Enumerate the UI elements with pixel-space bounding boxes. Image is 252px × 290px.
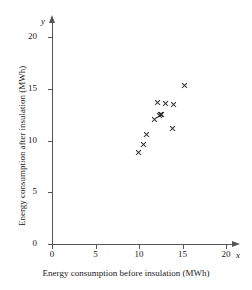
data-point <box>154 99 161 106</box>
x-tick-label: 5 <box>84 250 108 259</box>
x-tick-label: 0 <box>40 250 64 259</box>
data-point <box>170 101 177 108</box>
x-tick-label: 10 <box>127 250 151 259</box>
y-axis-letter: y <box>41 16 45 26</box>
y-tick-label: 20 <box>0 32 44 41</box>
y-tick <box>48 37 53 38</box>
data-point <box>140 141 147 148</box>
y-axis-line <box>52 22 53 244</box>
data-point <box>162 100 169 107</box>
y-tick <box>48 141 53 142</box>
x-tick-label: 20 <box>214 250 238 259</box>
data-point <box>169 125 176 132</box>
x-tick-label: 15 <box>171 250 195 259</box>
y-tick <box>48 89 53 90</box>
y-axis-title: Energy consumption after insulation (MWh… <box>17 66 27 226</box>
data-point <box>158 111 165 118</box>
y-tick <box>48 192 53 193</box>
x-axis-title: Energy consumption before insulation (MW… <box>0 268 252 278</box>
x-axis-arrow-icon <box>232 241 240 247</box>
scatter-chart: y x 05101520 05101520 Energy consumption… <box>0 0 252 290</box>
data-point <box>181 82 188 89</box>
y-axis-arrow-icon <box>49 15 55 23</box>
data-point <box>135 149 142 156</box>
x-axis-line <box>52 244 234 245</box>
y-tick-label: 0 <box>0 239 44 248</box>
data-point <box>143 131 150 138</box>
